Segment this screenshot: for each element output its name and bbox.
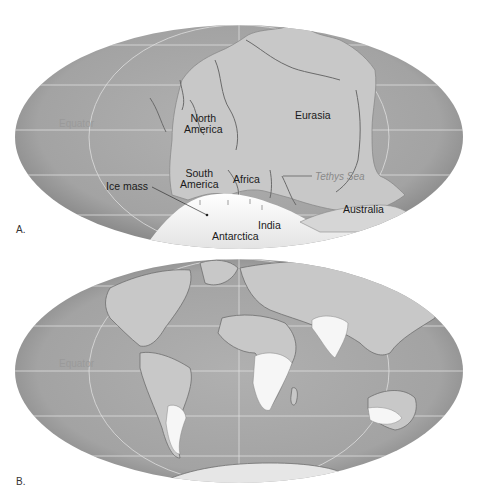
label-australia: Australia [343,204,384,215]
label-india: India [258,220,281,231]
label-tethys-sea: Tethys Sea [315,171,365,182]
map-panel-b: Equator B. [0,258,477,497]
label-antarctica: Antarctica [212,231,259,242]
modern-map [0,258,477,497]
label-africa: Africa [233,174,260,185]
map-panel-a: Equator North America Eurasia South Amer… [0,0,477,250]
label-eurasia: Eurasia [295,110,331,121]
panel-letter-b: B. [16,476,25,487]
label-north-america: North America [184,113,223,135]
equator-label: Equator [59,118,94,129]
madagascar [291,388,298,405]
label-ice-mass: Ice mass [106,181,148,192]
label-south-america: South America [180,168,219,190]
equator-label: Equator [59,358,94,369]
panel-letter-a: A. [16,224,25,235]
